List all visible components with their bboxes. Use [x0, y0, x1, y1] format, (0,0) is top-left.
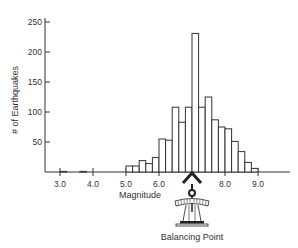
histogram-bar [80, 171, 87, 172]
histogram-bar [152, 158, 159, 172]
balancing-point-scale-icon [175, 173, 209, 226]
x-tick-label: 5.0 [120, 179, 132, 189]
x-tick-label: 6.0 [153, 179, 165, 189]
x-tick-label: 4.0 [87, 179, 99, 189]
histogram-bar [205, 97, 212, 172]
histogram-bar [245, 162, 252, 172]
y-axis: 50100150200250 [28, 17, 50, 172]
histogram-bar [238, 152, 245, 172]
histogram-bar [251, 168, 258, 172]
histogram-bar [179, 122, 186, 172]
x-tick-label: 8.0 [219, 179, 231, 189]
histogram-bar [199, 107, 206, 172]
y-tick-label: 200 [28, 47, 42, 57]
y-tick-label: 100 [28, 107, 42, 117]
histogram-bar [232, 141, 239, 172]
histogram-bar [166, 140, 173, 172]
x-tick-label: 9.0 [252, 179, 264, 189]
x-tick-label: 3.0 [54, 179, 66, 189]
histogram-bar [218, 127, 225, 172]
histogram-bar [172, 107, 179, 172]
y-axis-title: # of Earthquakes [10, 65, 20, 134]
histogram-bar [126, 166, 133, 172]
histogram-bar [192, 33, 199, 172]
histogram-bar [159, 139, 166, 172]
histogram-bar [60, 171, 67, 172]
histogram-bar [185, 107, 192, 172]
y-tick-label: 250 [28, 17, 42, 27]
histogram-bar [212, 120, 219, 172]
histogram-bar [139, 161, 146, 172]
balancing-point-label: Balancing Point [161, 232, 224, 242]
histogram-bars [60, 33, 258, 172]
histogram-bar [133, 166, 140, 172]
histogram-bar [225, 129, 232, 172]
x-axis-title: Magnitude [119, 190, 161, 200]
earthquake-magnitude-histogram: 50100150200250 3.04.05.06.08.09.0 # of E… [0, 0, 298, 248]
y-tick-label: 50 [33, 137, 43, 147]
y-tick-label: 150 [28, 77, 42, 87]
histogram-bar [146, 164, 153, 172]
